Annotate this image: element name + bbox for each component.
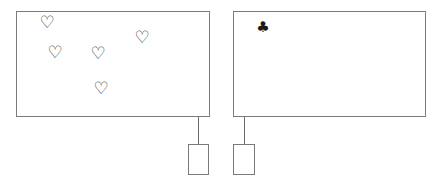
right-connector-line [244,117,245,144]
left-connector-line [198,117,199,144]
right-slot-box [233,144,255,175]
left-slot-box [188,144,209,175]
heart-outline-icon: ♡ [93,80,108,97]
heart-outline-icon: ♡ [39,14,54,31]
club-icon: ♣ [256,20,269,35]
heart-outline-icon: ♡ [47,44,62,61]
heart-outline-icon: ♡ [134,29,149,46]
heart-outline-icon: ♡ [90,45,105,62]
